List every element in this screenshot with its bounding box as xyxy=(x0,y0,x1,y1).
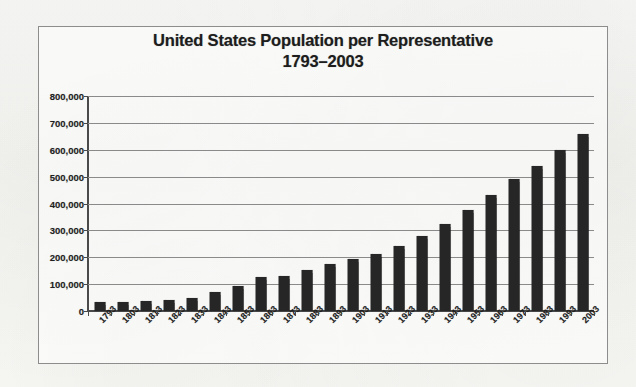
chart-title-line1: United States Population per Representat… xyxy=(38,30,608,51)
bar-slot xyxy=(88,96,111,311)
bar-slot xyxy=(341,96,364,311)
bar xyxy=(255,277,266,311)
bar-slot xyxy=(479,96,502,311)
bar xyxy=(324,264,335,311)
bar xyxy=(370,254,381,311)
bar xyxy=(416,236,427,311)
x-axis-tick xyxy=(88,311,89,316)
x-axis-tick xyxy=(157,311,158,316)
x-axis-tick xyxy=(341,311,342,316)
x-axis-tick xyxy=(134,311,135,316)
chart-title-line2: 1793–2003 xyxy=(38,51,608,72)
x-axis-tick xyxy=(272,311,273,316)
bar xyxy=(301,270,312,311)
bar-slot xyxy=(157,96,180,311)
x-axis-tick xyxy=(548,311,549,316)
bars-group xyxy=(88,96,594,311)
bar xyxy=(485,195,496,311)
bar-slot xyxy=(433,96,456,311)
x-axis-tick xyxy=(433,311,434,316)
bar-slot xyxy=(364,96,387,311)
x-axis-tick xyxy=(364,311,365,316)
bar xyxy=(94,302,105,311)
bar xyxy=(554,150,565,311)
x-axis-tick xyxy=(318,311,319,316)
x-axis-tick xyxy=(180,311,181,316)
x-axis-tick xyxy=(111,311,112,316)
bar-slot xyxy=(571,96,594,311)
bar xyxy=(232,286,243,311)
bar-slot xyxy=(180,96,203,311)
chart-title: United States Population per Representat… xyxy=(38,30,608,72)
y-axis-label: 0 xyxy=(36,306,84,317)
x-axis-tick xyxy=(456,311,457,316)
bar-slot xyxy=(295,96,318,311)
bar xyxy=(347,259,358,311)
bar-slot xyxy=(410,96,433,311)
y-axis-label: 100,000 xyxy=(36,279,84,290)
x-axis-tick xyxy=(387,311,388,316)
y-axis-label: 400,000 xyxy=(36,198,84,209)
x-axis-tick xyxy=(502,311,503,316)
bar-slot xyxy=(548,96,571,311)
bar-slot xyxy=(318,96,341,311)
bar-slot xyxy=(203,96,226,311)
bar xyxy=(439,224,450,311)
bar-slot xyxy=(249,96,272,311)
bar xyxy=(186,298,197,311)
x-axis-tick xyxy=(226,311,227,316)
plot-area: 800,000700,000600,000500,000400,000300,0… xyxy=(88,96,594,311)
bar-slot xyxy=(272,96,295,311)
y-axis-label: 800,000 xyxy=(36,91,84,102)
y-axis-label: 600,000 xyxy=(36,144,84,155)
bar-slot xyxy=(387,96,410,311)
x-axis-tick xyxy=(295,311,296,316)
bar xyxy=(278,276,289,311)
x-axis-tick xyxy=(571,311,572,316)
bar xyxy=(393,246,404,311)
y-axis-label: 200,000 xyxy=(36,252,84,263)
bar xyxy=(508,179,519,311)
x-axis-tick xyxy=(594,311,595,316)
bar xyxy=(577,134,588,311)
bar-slot xyxy=(226,96,249,311)
bar-slot xyxy=(456,96,479,311)
bar xyxy=(531,166,542,311)
bar-slot xyxy=(134,96,157,311)
x-axis-tick xyxy=(249,311,250,316)
bar-slot xyxy=(525,96,548,311)
x-axis-tick xyxy=(479,311,480,316)
bar-slot xyxy=(111,96,134,311)
bar xyxy=(117,302,128,311)
x-axis-tick xyxy=(410,311,411,316)
y-axis-label: 700,000 xyxy=(36,117,84,128)
y-axis-label: 300,000 xyxy=(36,225,84,236)
x-axis-tick xyxy=(203,311,204,316)
x-axis-tick xyxy=(525,311,526,316)
bar-slot xyxy=(502,96,525,311)
bar xyxy=(462,210,473,311)
bar xyxy=(140,301,151,311)
y-axis-label: 500,000 xyxy=(36,171,84,182)
bar xyxy=(163,300,174,311)
bar xyxy=(209,292,220,311)
